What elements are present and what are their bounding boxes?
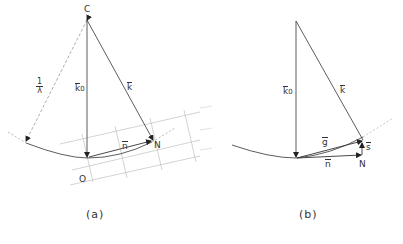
- caption-a: (a): [86, 208, 104, 221]
- label-s: s: [366, 142, 371, 152]
- label-k: k: [127, 82, 132, 92]
- figure-b: [200, 21, 393, 158]
- diagram-canvas: [0, 0, 403, 244]
- label-radius-one-over-lambda: 1 λ: [36, 78, 43, 95]
- label-n-b: n: [325, 159, 331, 169]
- label-k0: k0: [75, 83, 85, 93]
- label-origin-o: O: [79, 175, 86, 184]
- label-center-c: C: [84, 5, 90, 14]
- caption-b: (b): [299, 208, 318, 221]
- figure-a: [8, 20, 200, 185]
- label-g: g: [322, 137, 328, 147]
- label-node-n-b: N: [359, 160, 366, 169]
- ewald-sphere-arc-b: [232, 137, 363, 158]
- label-k0-b: k0: [283, 86, 293, 96]
- label-n: n: [122, 141, 128, 151]
- k-vector: [87, 20, 153, 140]
- label-node-n: N: [154, 141, 161, 150]
- k-vector-b: [296, 21, 363, 140]
- label-k-b: k: [340, 85, 345, 95]
- n-vector: [89, 141, 151, 157]
